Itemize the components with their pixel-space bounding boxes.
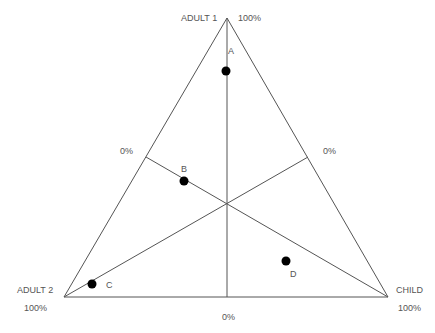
vertex-top-label: ADULT 1 — [181, 13, 217, 23]
point-b-label: B — [181, 164, 187, 174]
point-d-label: D — [290, 269, 297, 279]
vertex-left-value: 100% — [24, 303, 47, 313]
vertex-left-label: ADULT 2 — [17, 285, 53, 295]
point-a — [222, 67, 231, 76]
vertex-right-label: CHILD — [396, 285, 423, 295]
vertex-top-value: 100% — [238, 13, 261, 23]
point-c-label: C — [106, 280, 113, 290]
point-d — [282, 257, 291, 266]
point-c — [88, 280, 97, 289]
triangle-outline — [64, 18, 388, 297]
point-b — [180, 177, 189, 186]
ternary-diagram — [0, 0, 435, 333]
vertex-right-value: 100% — [398, 303, 421, 313]
left-side-zero-label: 0% — [120, 146, 133, 156]
right-side-zero-label: 0% — [323, 146, 336, 156]
base-zero-label: 0% — [222, 312, 235, 322]
point-a-label: A — [228, 46, 234, 56]
